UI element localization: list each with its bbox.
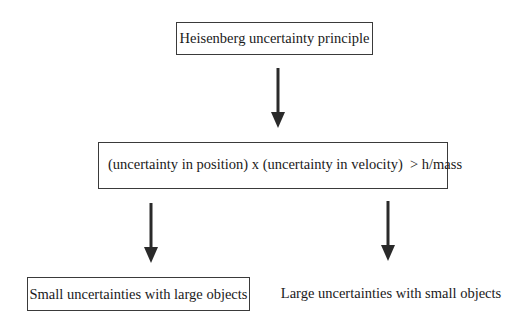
arrow-relation-to-large [381, 201, 395, 261]
node-heisenberg-principle: Heisenberg uncertainty principle [176, 22, 373, 55]
node-small-uncertainties: Small uncertainties with large objects [27, 277, 250, 311]
node-uncertainty-relation: (uncertainty in position) x (uncertainty… [98, 142, 448, 189]
node-label: Heisenberg uncertainty principle [180, 30, 370, 47]
node-label: Small uncertainties with large objects [30, 286, 248, 303]
arrow-principle-to-relation [271, 68, 285, 128]
node-label: (uncertainty in position) x (uncertainty… [108, 156, 462, 173]
node-label: Large uncertainties with small objects [281, 285, 501, 302]
arrow-relation-to-small [144, 203, 158, 263]
node-large-uncertainties: Large uncertainties with small objects [280, 278, 502, 308]
